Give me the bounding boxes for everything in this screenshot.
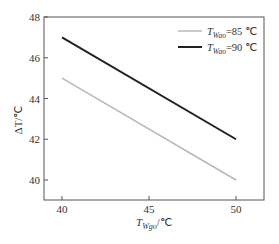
svg-text:TWao=90 ℃: TWao=90 ℃ [207, 42, 257, 56]
y-tick-label: 40 [29, 174, 41, 186]
legend-item-90: TWao=90 ℃ [178, 42, 257, 56]
y-tick-label: 42 [29, 133, 40, 145]
x-tick-label: 45 [144, 203, 156, 215]
svg-text:TWao=85 ℃: TWao=85 ℃ [207, 26, 257, 40]
x-axis: 404550 [57, 196, 243, 215]
line-chart: 4042444648 404550 ΔT/℃ TWgo/℃ TWao=85 ℃ … [0, 0, 279, 244]
y-axis: 4042444648 [29, 11, 48, 186]
y-tick-label: 46 [29, 52, 41, 64]
series-line-0 [62, 78, 236, 180]
y-tick-label: 44 [29, 93, 41, 105]
x-tick-label: 40 [57, 203, 69, 215]
series-lines [62, 37, 236, 180]
x-tick-label: 50 [231, 203, 243, 215]
x-axis-label: TWgo/℃ [136, 216, 172, 231]
y-axis-label: ΔT/℃ [12, 106, 24, 135]
y-tick-label: 48 [29, 11, 41, 23]
legend-item-85: TWao=85 ℃ [178, 26, 257, 40]
legend: TWao=85 ℃ TWao=90 ℃ [178, 26, 257, 56]
